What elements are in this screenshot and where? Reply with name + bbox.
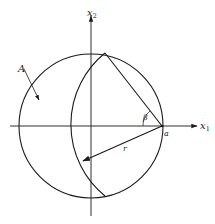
region-a-label: A [17, 63, 25, 74]
x2-axis-label: x2 [87, 7, 97, 20]
angle-beta-label: β [142, 113, 148, 122]
x1-axis-label: x1 [200, 120, 210, 133]
inner-arc [71, 53, 105, 196]
point-a-dot [161, 125, 164, 128]
point-a-label: a [164, 129, 169, 138]
radius-r-label: r [123, 144, 128, 153]
diagram-figure: x2 x1 a β r A [0, 0, 215, 224]
